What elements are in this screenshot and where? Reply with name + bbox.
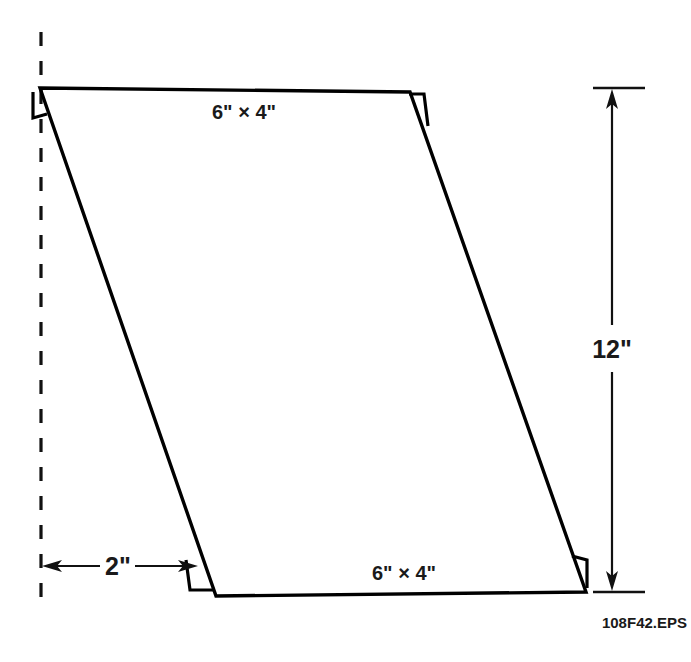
vertical-dimension-label: 12" <box>592 335 632 363</box>
figure-container: 12" 2" 6" × 4" 6" × 4" 108F42.EPS <box>0 0 691 662</box>
top-edge-size-label: 6" × 4" <box>212 101 276 123</box>
horizontal-offset-label: 2" <box>105 552 131 580</box>
figure-caption: 108F42.EPS <box>602 614 687 631</box>
parallelogram-outline <box>40 88 586 596</box>
bottom-edge-size-label: 6" × 4" <box>372 562 436 584</box>
technical-drawing-canvas: 12" 2" 6" × 4" 6" × 4" 108F42.EPS <box>0 0 691 662</box>
